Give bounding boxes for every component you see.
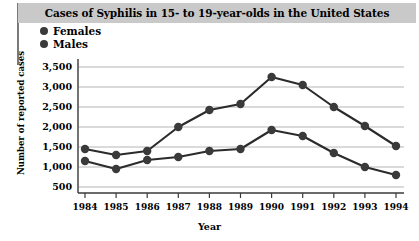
data-series-lines (85, 77, 396, 175)
data-point-males-1989 (236, 145, 244, 153)
y-axis-tick-label: 2,500 (42, 101, 72, 113)
chart-figure: Cases of Syphilis in 15- to 19-year-olds… (0, 0, 419, 241)
data-point-females-1988 (205, 106, 213, 114)
data-point-females-1989 (236, 100, 244, 108)
x-axis-tick-label: 1986 (135, 202, 160, 212)
data-point-males-1990 (267, 126, 275, 134)
y-axis-tick-label: 3,500 (42, 61, 72, 73)
data-point-males-1991 (299, 132, 307, 140)
y-axis-tick-label: 500 (52, 181, 72, 192)
data-point-males-1993 (361, 163, 369, 171)
data-point-females-1992 (330, 103, 338, 111)
series-line-females (85, 77, 396, 155)
x-axis-tick-label: 1989 (228, 202, 253, 212)
x-axis-tick-label: 1992 (321, 202, 346, 212)
x-axis-tick-marks (85, 193, 396, 198)
y-axis-tick-labels: 5001,0001,5002,0002,5003,0003,500 (42, 61, 72, 192)
x-axis-tick-label: 1988 (197, 202, 222, 212)
data-point-males-1994 (392, 171, 400, 179)
data-point-females-1987 (174, 123, 182, 131)
data-point-females-1986 (143, 147, 151, 155)
x-axis-tick-label: 1984 (72, 202, 97, 212)
data-point-females-1994 (392, 142, 400, 150)
x-axis-tick-label: 1987 (166, 202, 191, 212)
data-point-females-1993 (361, 122, 369, 130)
data-point-females-1985 (112, 151, 120, 159)
y-axis-tick-label: 1,500 (42, 141, 72, 153)
x-axis-tick-label: 1991 (290, 202, 315, 212)
gridlines (78, 67, 404, 187)
y-axis-tick-label: 2,000 (42, 121, 72, 133)
data-point-females-1984 (81, 145, 89, 153)
x-axis-tick-label: 1994 (383, 202, 408, 212)
plot-area: 5001,0001,5002,0002,5003,0003,500 198419… (0, 0, 419, 241)
data-point-males-1986 (143, 156, 151, 164)
y-axis-tick-label: 3,000 (42, 81, 72, 93)
data-point-males-1987 (174, 153, 182, 161)
data-series-markers (81, 73, 400, 179)
x-axis-tick-label: 1985 (104, 202, 129, 212)
data-point-males-1988 (205, 147, 213, 155)
y-axis-tick-label: 1,000 (42, 161, 72, 173)
data-point-males-1984 (81, 157, 89, 165)
x-axis-tick-labels: 1984198519861987198819891990199119921993… (72, 202, 408, 212)
data-point-males-1985 (112, 165, 120, 173)
x-axis-tick-label: 1993 (352, 202, 377, 212)
data-point-males-1992 (330, 149, 338, 157)
data-point-females-1991 (299, 81, 307, 89)
data-point-females-1990 (267, 73, 275, 81)
axis-lines (78, 59, 404, 193)
x-axis-tick-label: 1990 (259, 202, 284, 212)
